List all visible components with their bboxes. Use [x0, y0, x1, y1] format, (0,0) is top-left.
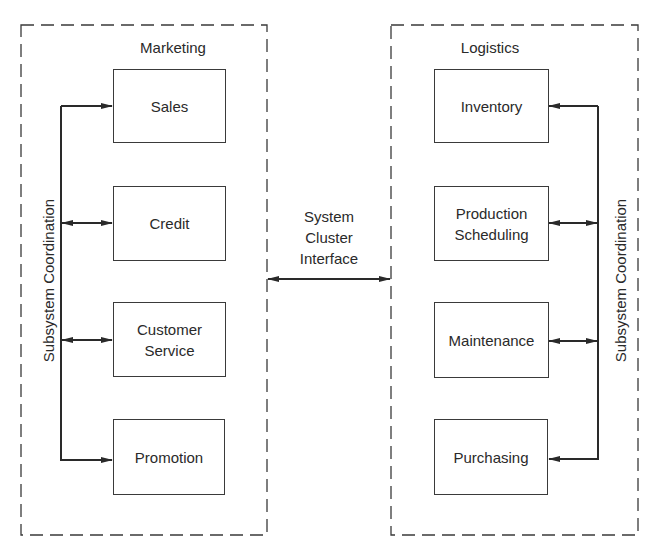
production-scheduling-label: Production Scheduling [454, 203, 528, 245]
diagram-connectors [0, 0, 658, 559]
customer-service-line2: Service [144, 342, 194, 359]
production-scheduling-line2: Scheduling [454, 226, 528, 243]
marketing-coordination-label: Subsystem Coordination [40, 196, 57, 366]
production-scheduling-line1: Production [456, 205, 528, 222]
sales-label: Sales [151, 96, 189, 117]
customer-service-label: Customer Service [137, 319, 202, 361]
purchasing-label: Purchasing [453, 447, 528, 468]
inventory-box: Inventory [434, 69, 549, 143]
system-cluster-interface-label: System Cluster Interface [269, 206, 389, 269]
customer-service-box: Customer Service [113, 302, 226, 377]
inventory-label: Inventory [461, 96, 523, 117]
sales-box: Sales [113, 69, 226, 143]
purchasing-box: Purchasing [434, 419, 548, 495]
interface-line3: Interface [300, 250, 358, 267]
interface-line1: System [304, 208, 354, 225]
marketing-cluster-title: Marketing [113, 39, 233, 56]
credit-box: Credit [113, 186, 226, 261]
promotion-box: Promotion [113, 419, 225, 495]
interface-line2: Cluster [305, 229, 353, 246]
credit-label: Credit [149, 213, 189, 234]
production-scheduling-box: Production Scheduling [434, 186, 549, 261]
maintenance-box: Maintenance [434, 302, 549, 378]
logistics-coordination-label: Subsystem Coordination [612, 196, 629, 366]
promotion-label: Promotion [135, 447, 203, 468]
customer-service-line1: Customer [137, 321, 202, 338]
logistics-cluster-title: Logistics [430, 39, 550, 56]
maintenance-label: Maintenance [449, 330, 535, 351]
